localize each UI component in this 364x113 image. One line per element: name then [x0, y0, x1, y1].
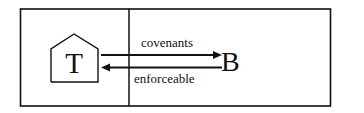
enforceable-label: enforceable — [134, 71, 195, 86]
party-b-label: B — [221, 46, 240, 77]
covenant-diagram: T covenants enforceable B — [0, 0, 364, 113]
party-t-label: T — [65, 47, 83, 79]
covenants-label: covenants — [141, 35, 193, 50]
covenants-arrow — [101, 51, 222, 59]
